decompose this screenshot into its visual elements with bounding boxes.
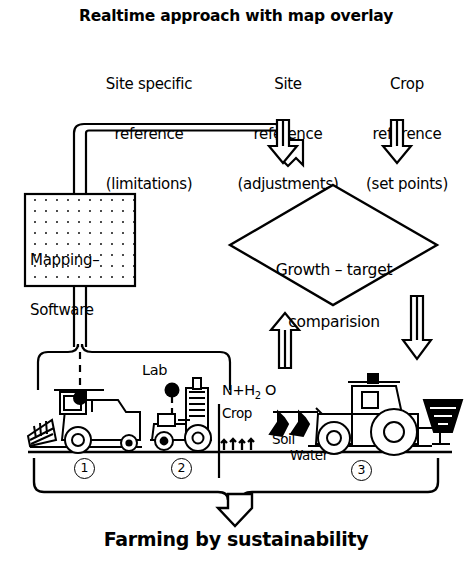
spreader-tractor-illustration (270, 374, 462, 455)
stage-number-2: 2 (171, 458, 192, 479)
nitrogen-water-label: N+H2 O (222, 382, 276, 401)
stage-number-3: 3 (351, 460, 372, 481)
crop-reference-arrow-down (383, 120, 411, 163)
diagram-canvas: Realtime approach with map overlay Site … (0, 0, 472, 578)
decision-line2: comparision (238, 314, 430, 331)
sustainability-arrowhead (218, 494, 252, 526)
mapping-software-line1: Mapping– (30, 252, 132, 269)
combine-harvester-illustration (28, 390, 142, 453)
water-label: Water (290, 448, 328, 463)
decision-line1: Growth – target (238, 262, 430, 279)
mapping-software-line2: Software (30, 302, 132, 319)
soil-label: Soil (272, 432, 295, 447)
stage-number-1: 1 (74, 458, 95, 479)
nitrogen-water-main: N+H (222, 382, 255, 398)
lab-label: Lab (142, 362, 167, 378)
nitrogen-water-tail: O (261, 382, 276, 398)
diagram-footer: Farming by sustainability (0, 529, 472, 550)
mapping-software-label: Mapping– Software (30, 218, 132, 352)
map-overlay-pipe-arrow (74, 124, 292, 194)
crop-glyphs (221, 439, 254, 450)
crop-label: Crop (222, 406, 252, 421)
decision-label: Growth – target comparision (238, 227, 430, 366)
sampling-tractor-illustration (150, 378, 212, 451)
